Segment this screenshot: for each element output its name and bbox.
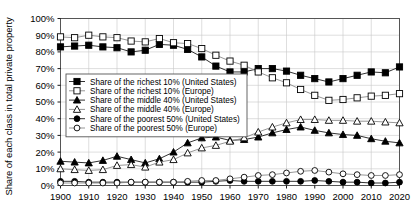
data-point [171, 179, 177, 185]
data-point [368, 180, 374, 186]
data-point [269, 75, 275, 81]
data-point [312, 178, 318, 184]
data-point [255, 128, 262, 135]
data-point [72, 35, 78, 41]
legend-label: Share of the middle 40% (Europe) [90, 105, 214, 114]
legend-label: Share of the poorest 50% (United States) [90, 115, 240, 124]
data-point [241, 62, 247, 68]
data-point [114, 35, 120, 41]
data-point [170, 149, 177, 156]
data-point [114, 45, 120, 51]
x-tick-label: 2000 [332, 191, 353, 202]
legend-marker [74, 116, 80, 122]
y-tick-label: 90% [35, 30, 55, 41]
data-point [156, 41, 162, 47]
y-tick-label: 80% [35, 46, 55, 57]
data-point [185, 40, 191, 46]
x-tick-label: 1910 [78, 191, 99, 202]
data-point [170, 156, 177, 163]
data-point [326, 97, 332, 103]
x-tick-label: 1920 [106, 191, 127, 202]
x-axis-tick-labels: 1900191019201930194019501960197019801990… [50, 191, 410, 202]
data-point [128, 49, 134, 55]
data-point [354, 179, 360, 185]
plot-area-wrapper: 0%10%20%30%40%50%60%70%80%90%100% 190019… [0, 0, 415, 213]
data-point [58, 180, 64, 186]
legend-label: Share of the richest 10% (United States) [90, 78, 237, 87]
y-tick-label: 70% [35, 63, 55, 74]
data-point [284, 178, 290, 184]
x-tick-label: 1930 [135, 191, 156, 202]
data-point [312, 76, 318, 82]
data-point [396, 64, 402, 70]
data-point [227, 176, 233, 182]
line-chart: 0%10%20%30%40%50%60%70%80%90%100% 190019… [0, 0, 415, 213]
data-point [57, 34, 63, 40]
data-point [86, 180, 92, 186]
data-point [100, 44, 106, 50]
data-point [354, 72, 360, 78]
data-point [368, 69, 374, 75]
y-tick-label: 20% [35, 147, 55, 158]
data-point [283, 80, 289, 86]
y-tick-label: 0% [41, 180, 55, 191]
x-tick-label: 1960 [219, 191, 240, 202]
data-point [340, 96, 346, 102]
x-tick-label: 2020 [389, 191, 410, 202]
data-point [255, 173, 261, 179]
legend-marker [74, 88, 80, 94]
y-axis-tick-labels: 0%10%20%30%40%50%60%70%80%90%100% [30, 13, 55, 191]
chart-container: Share of each class in total private pro… [0, 0, 415, 213]
data-point [340, 76, 346, 82]
data-point [368, 173, 374, 179]
data-point [57, 44, 63, 50]
x-tick-label: 1990 [304, 191, 325, 202]
data-point [199, 45, 205, 51]
data-point [382, 70, 388, 76]
data-point [397, 172, 403, 178]
data-point [354, 95, 360, 101]
legend-marker [74, 125, 80, 131]
data-point [298, 168, 304, 174]
data-point [269, 178, 275, 184]
data-point [213, 178, 219, 184]
x-tick-label: 1980 [276, 191, 297, 202]
data-point [284, 170, 290, 176]
data-point [326, 79, 332, 85]
data-point [184, 149, 191, 156]
legend-label: Share of the poorest 50% (Europe) [90, 124, 217, 133]
data-point [128, 179, 134, 185]
data-point [368, 93, 374, 99]
data-point [396, 91, 402, 97]
data-point [199, 178, 205, 184]
data-point [227, 58, 233, 64]
data-point [170, 40, 176, 46]
data-point [241, 174, 247, 180]
legend-marker [74, 78, 80, 84]
data-point [269, 172, 275, 178]
data-point [142, 47, 148, 53]
data-point [72, 43, 78, 49]
y-tick-label: 40% [35, 113, 55, 124]
data-point [57, 158, 64, 165]
data-point [213, 52, 219, 58]
data-point [86, 32, 92, 38]
data-point [354, 172, 360, 178]
legend-label: Share of the richest 10% (Europe) [90, 87, 214, 96]
data-point [298, 72, 304, 78]
data-point [156, 179, 162, 185]
data-point [185, 178, 191, 184]
data-point [72, 180, 78, 186]
data-point [86, 42, 92, 48]
data-point [113, 153, 120, 160]
data-point [184, 139, 191, 146]
data-point [213, 63, 219, 69]
y-tick-label: 30% [35, 130, 55, 141]
data-point [382, 173, 388, 179]
x-tick-label: 1970 [248, 191, 269, 202]
data-point [340, 171, 346, 177]
data-point [397, 179, 403, 185]
data-point [297, 123, 304, 130]
data-point [382, 92, 388, 98]
data-point [298, 178, 304, 184]
